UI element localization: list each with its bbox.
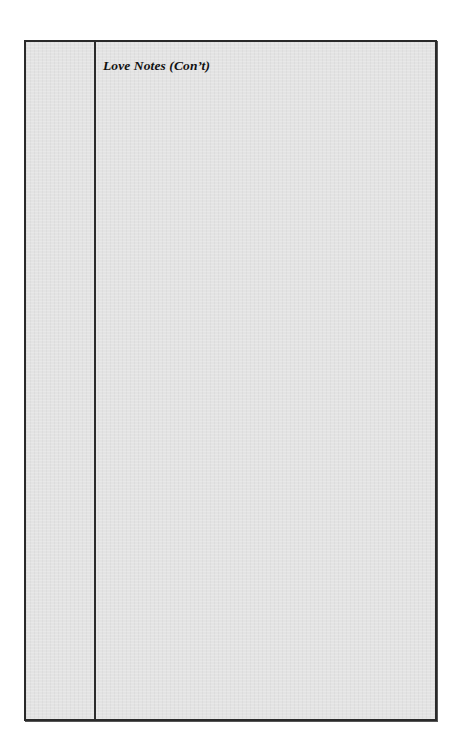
notes-page-frame: Love Notes (Con’t) — [24, 40, 437, 721]
page-title: Love Notes (Con’t) — [103, 58, 210, 74]
left-margin-column — [26, 42, 96, 719]
notes-content-area: Love Notes (Con’t) — [96, 42, 435, 719]
